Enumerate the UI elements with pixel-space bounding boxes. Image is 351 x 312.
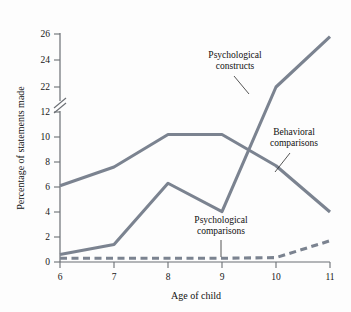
series-line-psychological-comparisons [60, 241, 330, 259]
annotation-behavioral-line2: comparisons [270, 138, 318, 148]
annotation-behavioral-line1: Behavioral [273, 127, 315, 137]
annotation-constructs-line1: Psychological [208, 50, 262, 60]
y-tick-label-26: 26 [41, 29, 51, 39]
x-tick-label-10: 10 [271, 272, 281, 282]
annotation-constructs-line2: constructs [216, 61, 255, 71]
y-tick-label-8: 8 [45, 157, 50, 167]
y-tick-label-6: 6 [45, 182, 50, 192]
y-axis-title: Percentage of statements made [15, 86, 26, 210]
annotation-constructs-leader [234, 76, 249, 94]
y-tick-labels: 0 2 4 6 8 10 12 22 24 26 [41, 29, 51, 267]
x-axis-title: Age of child [171, 290, 221, 301]
y-tick-label-22: 22 [41, 82, 51, 92]
y-tick-label-4: 4 [45, 207, 50, 217]
y-tick-label-12: 12 [41, 107, 51, 117]
annotation-comparisons-line1: Psychological [194, 215, 248, 225]
annotation-psychological-comparisons: Psychological comparisons [194, 215, 248, 257]
annotation-comparisons-line2: comparisons [197, 226, 245, 236]
chart-figure: 0 2 4 6 8 10 12 22 24 26 6 7 8 9 10 [0, 0, 351, 312]
x-tick-label-8: 8 [166, 272, 171, 282]
y-tick-label-24: 24 [41, 55, 51, 65]
line-chart-svg: 0 2 4 6 8 10 12 22 24 26 6 7 8 9 10 [0, 0, 351, 312]
y-tick-label-10: 10 [41, 132, 51, 142]
annotation-behavioral-leader [275, 153, 290, 172]
annotation-psychological-constructs: Psychological constructs [208, 50, 262, 94]
x-tick-marks [60, 262, 330, 268]
x-tick-label-11: 11 [325, 272, 334, 282]
y-tick-label-0: 0 [45, 257, 50, 267]
y-tick-marks [54, 34, 60, 262]
x-tick-label-9: 9 [220, 272, 225, 282]
x-tick-label-6: 6 [58, 272, 63, 282]
x-tick-label-7: 7 [112, 272, 117, 282]
x-tick-labels: 6 7 8 9 10 11 [58, 272, 335, 282]
y-tick-label-2: 2 [45, 232, 50, 242]
